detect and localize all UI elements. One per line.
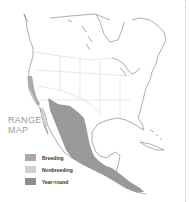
map-legend: Breeding Nonbreeding Year-round <box>25 153 73 189</box>
year-round-swatch-icon <box>25 178 36 185</box>
legend-item-nonbreeding: Nonbreeding <box>25 165 73 174</box>
nonbreeding-range <box>42 106 48 126</box>
nonbreeding-swatch-icon <box>25 166 36 173</box>
legend-label: Year-round <box>42 179 68 185</box>
legend-label: Breeding <box>42 155 64 161</box>
page-divider <box>185 0 186 202</box>
legend-item-breeding: Breeding <box>25 153 73 162</box>
legend-label: Nonbreeding <box>42 167 73 173</box>
legend-item-year-round: Year-round <box>25 177 73 186</box>
map-title-line1: RANGE <box>8 115 42 125</box>
map-title-line2: MAP <box>8 125 42 135</box>
breeding-swatch-icon <box>25 154 36 161</box>
map-title: RANGE MAP <box>8 115 42 135</box>
